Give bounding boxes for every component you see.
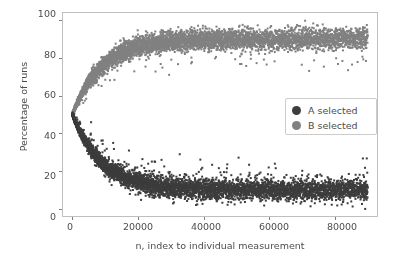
legend-marker-icon-a <box>292 106 301 115</box>
y-tick-label-80: 80 <box>30 49 56 60</box>
legend-label-a: A selected <box>308 105 358 116</box>
y-tick-label-100: 100 <box>30 8 56 19</box>
figure-canvas: Percentage of runs n, index to individua… <box>0 0 396 262</box>
legend-marker-icon-b <box>292 121 301 130</box>
legend: A selected B selected <box>285 98 377 135</box>
y-axis-label: Percentage of runs <box>18 37 29 177</box>
y-tick-label-60: 60 <box>30 89 56 100</box>
y-tick-label-20: 20 <box>30 170 56 181</box>
x-tick-label-40000: 40000 <box>176 221 236 232</box>
x-tick-label-80000: 80000 <box>312 221 372 232</box>
legend-label-b: B selected <box>308 120 358 131</box>
x-axis-label: n, index to individual measurement <box>62 240 378 251</box>
x-tick-label-20000: 20000 <box>108 221 168 232</box>
x-tick-label-60000: 60000 <box>244 221 304 232</box>
y-tick-label-40: 40 <box>30 130 56 141</box>
x-tick-label-0: 0 <box>40 221 100 232</box>
legend-item-b-selected: B selected <box>292 118 358 133</box>
legend-item-a-selected: A selected <box>292 103 358 118</box>
